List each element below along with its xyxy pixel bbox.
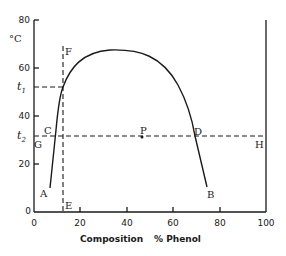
x-tick-80: 80 bbox=[214, 218, 226, 228]
label-b: B bbox=[207, 189, 214, 200]
phase-diagram: 80 60 40 20 0 0 20 40 60 80 100 °C Compo… bbox=[0, 0, 286, 256]
x-tick-20: 20 bbox=[74, 218, 86, 228]
solubility-curve bbox=[50, 50, 207, 188]
x-tick-40: 40 bbox=[121, 218, 133, 228]
x-axis-title: Composition bbox=[80, 234, 143, 244]
label-a: A bbox=[39, 188, 48, 199]
label-c: C bbox=[44, 125, 52, 136]
x-tick-60: 60 bbox=[167, 218, 179, 228]
label-e: E bbox=[65, 200, 72, 211]
y-tick-0: 0 bbox=[25, 206, 31, 216]
y-tick-20: 20 bbox=[19, 159, 31, 169]
label-p: P bbox=[140, 125, 147, 136]
y-tick-60: 60 bbox=[19, 63, 31, 73]
y-tick-80: 80 bbox=[19, 15, 31, 25]
label-d: D bbox=[194, 126, 202, 137]
y-axis-unit: °C bbox=[9, 33, 22, 44]
label-f: F bbox=[65, 46, 72, 57]
x-axis-unit: % Phenol bbox=[154, 234, 201, 244]
x-tick-0: 0 bbox=[31, 218, 37, 228]
y-tick-40: 40 bbox=[19, 111, 31, 121]
label-h: H bbox=[255, 139, 264, 150]
label-g: G bbox=[34, 139, 42, 150]
x-tick-100: 100 bbox=[257, 218, 274, 228]
t1-label: t1 bbox=[17, 80, 26, 95]
t2-label: t2 bbox=[17, 129, 26, 144]
